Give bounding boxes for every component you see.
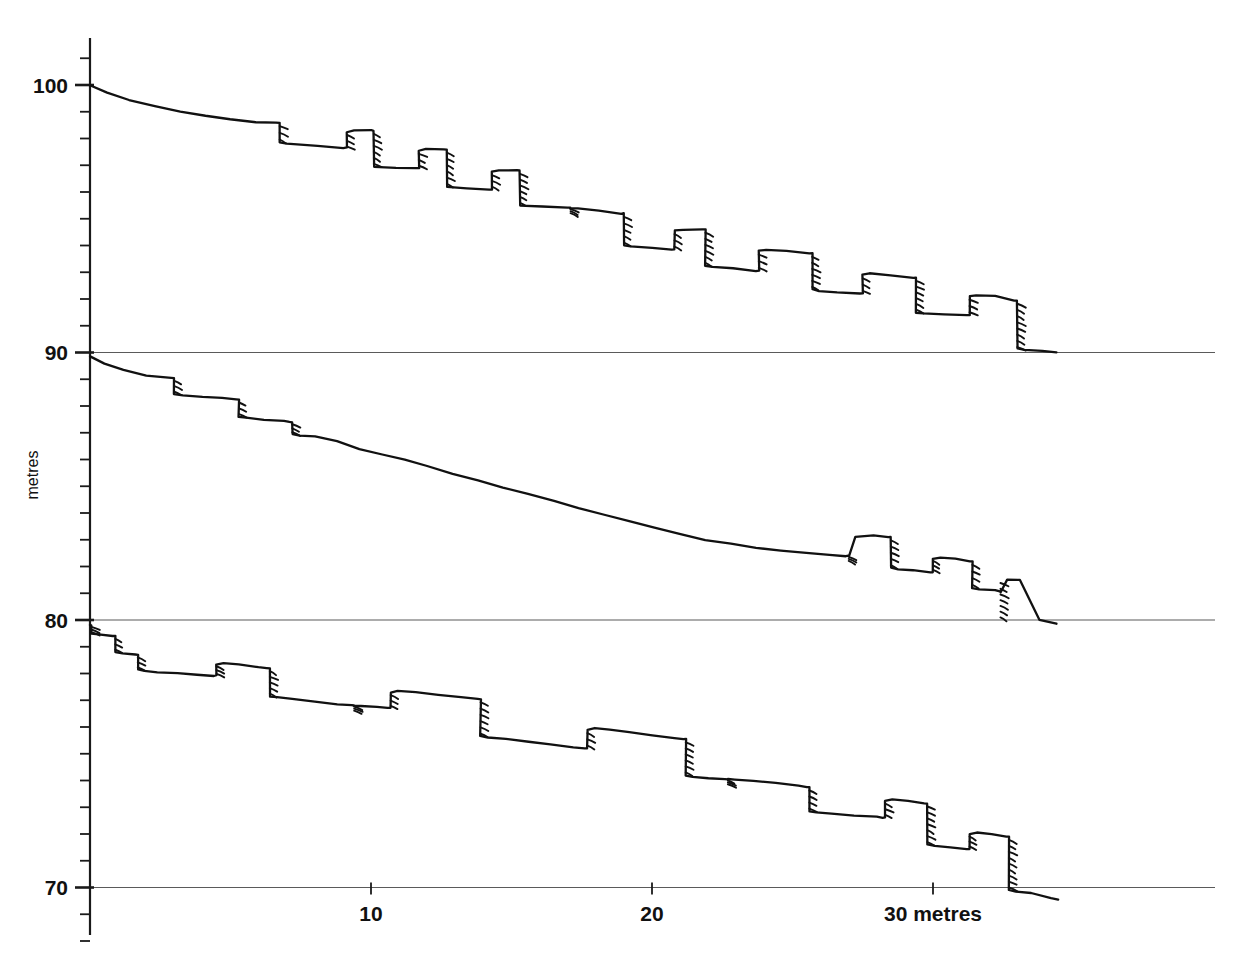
hachure-tick	[933, 570, 940, 573]
y-tick-label-80: 80	[45, 609, 68, 632]
hachure-mark	[216, 666, 224, 677]
hachure-mark	[280, 126, 288, 143]
hachure-tick	[705, 251, 713, 255]
hachure-mark	[916, 281, 924, 314]
hachure-tick	[927, 818, 934, 821]
hachure-tick	[374, 146, 382, 150]
x-tick-label-10: 10	[359, 902, 382, 925]
hachure-tick	[1017, 310, 1024, 314]
hachure-tick	[280, 133, 288, 137]
hachure-mark	[492, 175, 500, 190]
hachure-tick	[1000, 617, 1006, 621]
hachure-mark	[885, 804, 893, 818]
hachure-tick	[481, 715, 489, 718]
hachure-tick	[1000, 612, 1007, 616]
hachure-tick	[347, 135, 354, 139]
hachure-tick	[1017, 304, 1025, 308]
hachure-tick	[520, 185, 529, 189]
x-tick-label-30: 30 metres	[884, 902, 982, 925]
hachure-tick	[520, 174, 528, 177]
hachure-tick	[481, 721, 488, 724]
hachure-tick	[174, 386, 182, 390]
hachure-tick	[174, 381, 181, 385]
hachure-tick	[216, 666, 223, 670]
hachure-tick	[927, 812, 935, 815]
hachure-tick	[916, 281, 924, 285]
hachure-mark	[933, 561, 940, 573]
hachure-mark	[849, 557, 857, 565]
hachure-tick	[916, 292, 923, 295]
hachure-tick	[885, 815, 891, 818]
hachure-mark	[347, 135, 355, 150]
hachure-mark	[239, 403, 247, 418]
hachure-tick	[292, 424, 300, 427]
y-tick-marks	[75, 58, 94, 941]
y-tick-label-100: 100	[33, 74, 68, 97]
hachure-tick	[347, 147, 355, 150]
hachure-tick	[520, 180, 527, 183]
profile-lower	[90, 625, 1058, 900]
hachure-mark	[571, 209, 579, 217]
hachure-tick	[347, 141, 354, 145]
hachure-tick	[1000, 600, 1007, 603]
y-tick-label-70: 70	[45, 876, 68, 899]
hachure-tick	[1017, 322, 1025, 326]
profile-lower-path	[90, 625, 1058, 900]
hachure-tick	[885, 809, 893, 812]
profile-series-group	[90, 85, 1058, 899]
hachure-mark	[354, 707, 362, 714]
hachure-tick	[916, 304, 923, 308]
hachure-mark	[1000, 583, 1008, 621]
x-tick-label-20: 20	[640, 902, 663, 925]
hachure-tick	[587, 746, 594, 750]
hachure-tick	[916, 298, 923, 301]
hachure-tick	[927, 836, 935, 840]
hachure-tick	[374, 140, 381, 143]
hachure-tick	[1017, 328, 1025, 331]
y-tick-label-90: 90	[45, 341, 68, 364]
y-axis	[75, 38, 94, 941]
profile-chart-canvas: 100908070 102030 metres metres	[0, 0, 1252, 965]
hachure-mark	[728, 780, 736, 787]
hachure-tick	[674, 247, 681, 251]
hachure-tick	[239, 408, 246, 412]
hachure-tick	[216, 674, 224, 677]
hachure-tick	[885, 804, 892, 808]
y-axis-title: metres	[24, 451, 41, 500]
x-tick-labels: 102030 metres	[359, 902, 982, 925]
profile-upper-path	[90, 85, 1056, 352]
hachure-tick	[280, 126, 288, 129]
hachure-mark	[927, 807, 935, 846]
hachure-tick	[916, 287, 924, 290]
terrace-profile-figure: 100908070 102030 metres metres	[0, 0, 1252, 965]
hachure-tick	[927, 807, 935, 810]
hachure-tick	[587, 739, 595, 742]
hachure-tick	[1000, 606, 1007, 610]
hachure-tick	[481, 727, 489, 731]
profile-middle-path	[90, 356, 1056, 623]
hachure-tick	[863, 278, 870, 281]
profile-upper	[90, 85, 1056, 352]
hachure-tick	[624, 217, 631, 220]
x-tick-marks	[371, 883, 933, 895]
hachure-mark	[174, 381, 182, 395]
hachure-tick	[927, 824, 935, 827]
gridlines	[90, 353, 1215, 888]
hachure-tick	[972, 578, 979, 582]
profile-middle	[90, 356, 1056, 623]
hachure-tick	[1000, 594, 1008, 598]
hachure-tick	[624, 223, 632, 227]
